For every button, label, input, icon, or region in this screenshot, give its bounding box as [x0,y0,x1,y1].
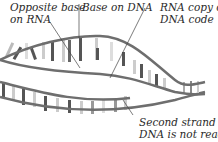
pointer-rna-copy [110,8,145,78]
label-opposite-base: Opposite base on RNA [10,1,85,25]
lower-backbone-1 [0,82,130,100]
label-base-on-dna: Base on DNA [82,1,153,13]
label-second-strand: Second strand of DNA is not read [139,116,218,140]
dna-backbone-upper [0,36,205,85]
label-rna-copy: RNA copy of DNA code [160,1,218,25]
